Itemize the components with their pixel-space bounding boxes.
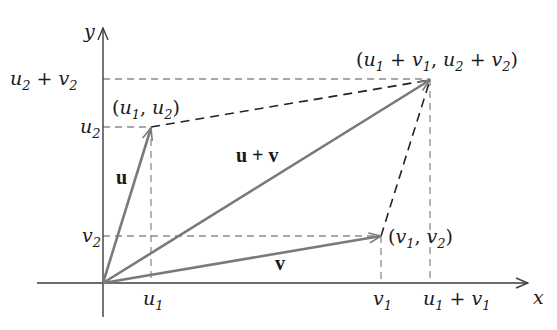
y-tick-v2: v2	[82, 224, 101, 250]
vector-diagram: y x u2 + v2 u2 v2 u1 v1 u1 + v1 (u1, u2)…	[0, 0, 557, 330]
x-tick-u1-plus-v1: u1 + v1	[423, 287, 491, 313]
x-tick-v1: v1	[373, 287, 392, 313]
parallelogram-sides	[151, 80, 430, 236]
vector-label-u-plus-v: u + v	[236, 144, 279, 166]
parallelogram-top-side	[151, 80, 430, 127]
vector-u	[103, 128, 151, 283]
parallelogram-right-side	[381, 80, 430, 236]
point-label-u1-u2: (u1, u2)	[112, 96, 180, 122]
vector-v	[103, 236, 381, 283]
point-label-sum: (u1 + v1, u2 + v2)	[356, 48, 518, 74]
x-axis-label: x	[533, 286, 544, 308]
point-label-v1-v2: (v1, v2)	[388, 225, 453, 251]
x-tick-u1: u1	[143, 287, 164, 313]
vector-label-u: u	[116, 166, 127, 188]
y-axis-label: y	[83, 20, 95, 42]
vector-label-v: v	[275, 252, 285, 274]
y-tick-u2-plus-v2: u2 + v2	[10, 67, 78, 93]
y-tick-u2: u2	[80, 115, 101, 141]
